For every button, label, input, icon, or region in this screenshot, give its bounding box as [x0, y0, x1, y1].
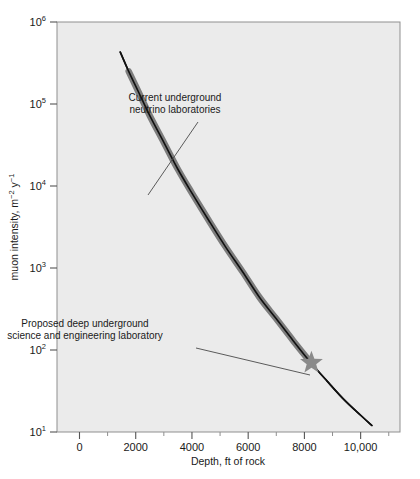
x-axis-title: Depth, ft of rock [191, 455, 266, 467]
x-tick-label: 2000 [123, 441, 147, 453]
proposed-deep-underground-lab-label: Proposed deep undergroundscience and eng… [7, 318, 163, 341]
muon-intensity-vs-depth-figure: 0200040006000800010,000 1061051041031021… [0, 0, 420, 479]
current-underground-neutrino-laboratories-label: Current undergroundneutrino laboratories [129, 92, 222, 115]
chart-canvas: 0200040006000800010,000 1061051041031021… [0, 0, 420, 479]
x-tick-label: 0 [76, 441, 82, 453]
x-tick-label: 6000 [236, 441, 260, 453]
x-tick-label: 4000 [180, 441, 204, 453]
x-tick-label: 8000 [292, 441, 316, 453]
y-axis-title: muon intensity, m−2 y−1 [7, 174, 20, 281]
plot-area-background [57, 22, 400, 432]
x-tick-label: 10,000 [344, 441, 378, 453]
